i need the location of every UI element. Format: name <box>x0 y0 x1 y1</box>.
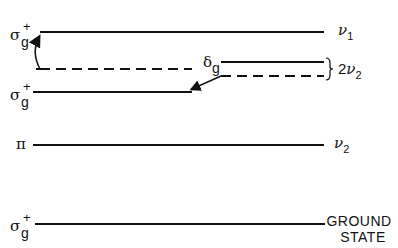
label-sigma-upper: σ + g <box>10 24 34 48</box>
label-ground-state: GROUND STATE <box>324 213 394 245</box>
label-sigma-lower: σ + g <box>10 84 34 108</box>
brace-icon <box>326 58 333 80</box>
label-2nu2: 2ν2 <box>338 61 362 77</box>
label-nu1: ν1 <box>338 23 353 38</box>
label-nu2: ν2 <box>334 136 349 151</box>
arrow-curved-up <box>35 37 40 69</box>
arrow-relaxation <box>192 76 221 89</box>
label-delta-g: δ g <box>203 55 223 75</box>
label-pi: π <box>16 137 26 152</box>
label-sigma-ground: σ + g <box>10 215 34 239</box>
